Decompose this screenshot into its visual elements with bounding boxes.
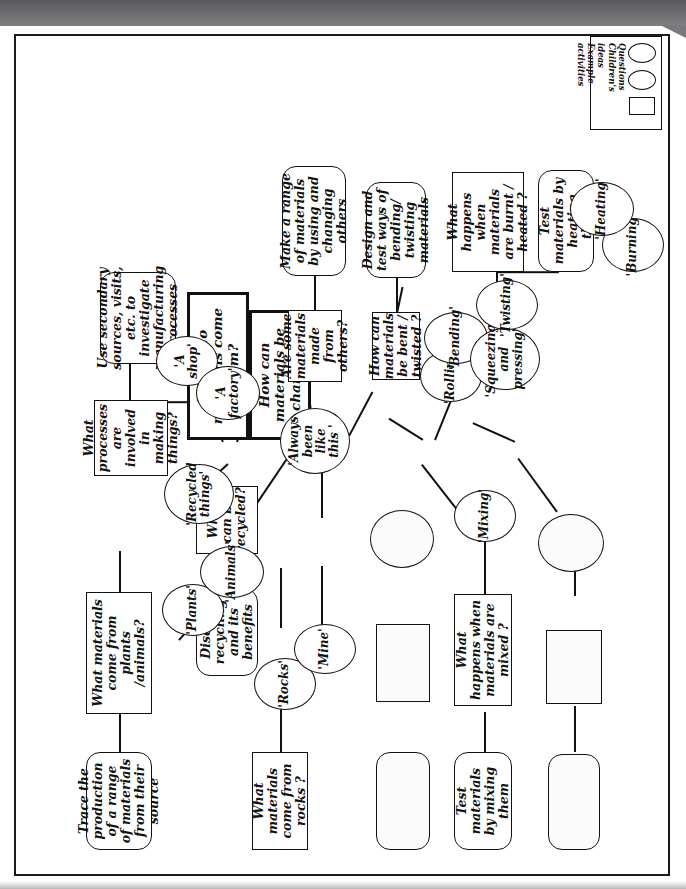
edge	[280, 568, 282, 628]
question-processes-making-things[interactable]: What processes are involved in making th…	[94, 400, 168, 476]
idea-squeezing-pressing[interactable]: 'Squeezing' and pressing'	[470, 328, 540, 390]
blank-rounded-shape-2[interactable]	[548, 754, 600, 850]
idea-mine[interactable]: 'Mine'	[294, 624, 356, 674]
ellipse-icon	[628, 43, 656, 63]
concept-map-canvas: Where do materials come from? How can ma…	[14, 34, 666, 872]
edge	[119, 712, 121, 754]
question-burnt-heated[interactable]: What happens when materials are burnt / …	[452, 172, 524, 272]
question-materials-from-rocks[interactable]: What materials come from rocks ?	[252, 752, 308, 850]
edge	[388, 418, 423, 441]
edge	[484, 542, 486, 594]
idea-mixing[interactable]: 'Mixing'	[454, 490, 516, 542]
edge	[321, 566, 323, 626]
edge	[348, 391, 373, 436]
ellipse-icon	[628, 70, 656, 90]
activity-design-test[interactable]: Design and test ways of bending/ twistin…	[366, 182, 426, 278]
edge	[484, 712, 486, 754]
question-made-from-others[interactable]: Are some materials made from others?	[288, 310, 342, 382]
idea-heating[interactable]: 'Heating'	[570, 182, 634, 236]
blank-ellipse-shape-2[interactable]	[538, 514, 604, 572]
idea-twisting[interactable]: 'Twisting'	[476, 280, 538, 330]
idea-recycled-things[interactable]: 'Recycled things'	[164, 464, 234, 524]
legend-labels: Questions Children's ideas Example activ…	[575, 43, 627, 92]
legend-shapes	[628, 43, 656, 115]
edge	[314, 276, 316, 312]
edge	[574, 706, 576, 752]
question-materials-plants-animals[interactable]: What materials come from plants /animals…	[86, 592, 152, 714]
idea-animals[interactable]: 'Animals'	[200, 546, 264, 598]
concept-map: Where do materials come from? How can ma…	[14, 34, 666, 872]
edge	[119, 551, 121, 595]
blank-ellipse-shape-1[interactable]	[370, 510, 434, 568]
question-bent-twisted[interactable]: How can materials be bent / twisted ?	[372, 312, 420, 380]
activity-make-range[interactable]: Make a range of materials by using and c…	[282, 166, 346, 276]
idea-a-factory[interactable]: 'A factory'	[196, 366, 260, 420]
activity-test-mixing[interactable]: Test materials by mixing them	[454, 752, 512, 850]
edge	[517, 458, 557, 512]
scan-bottom-shadow	[0, 881, 686, 889]
blank-rect-shape-1[interactable]	[376, 624, 430, 702]
blank-rounded-shape-1[interactable]	[376, 752, 430, 850]
blank-rect-shape-2[interactable]	[546, 630, 602, 704]
question-mixed[interactable]: What happens when materials are mixed ?	[454, 594, 512, 706]
activity-trace-production[interactable]: Trace the production of a range of mater…	[86, 752, 152, 850]
edge	[472, 423, 515, 443]
idea-always-been-like-this[interactable]: 'Always been like this '	[280, 408, 350, 474]
scan-top-band	[0, 0, 686, 26]
legend-box: Questions Children's ideas Example activ…	[590, 36, 662, 130]
rectangle-icon	[629, 97, 655, 115]
